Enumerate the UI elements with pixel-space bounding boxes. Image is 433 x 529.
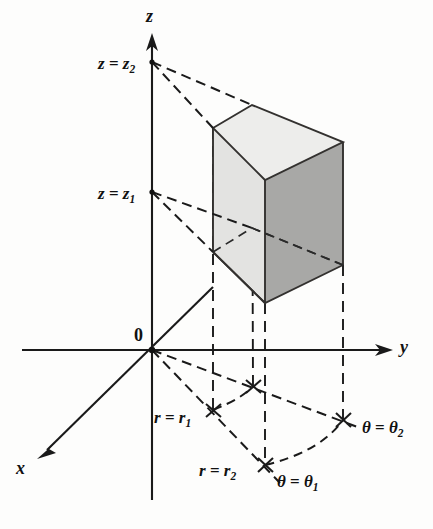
origin-label: 0 <box>134 325 143 345</box>
label-theta-first: θ = θ1 <box>277 472 319 493</box>
projline-z2-to-left <box>152 62 213 128</box>
axis-label-z: z <box>145 6 153 26</box>
axis-label-y: y <box>398 337 409 357</box>
z2-tick <box>149 59 154 64</box>
solid-wedge-group <box>213 105 343 303</box>
label-theta-second: θ = θ2 <box>362 418 404 439</box>
projline-z1-to-left <box>152 192 213 252</box>
label-z-upper: z = z2 <box>97 54 135 75</box>
ground-intersection-ticks <box>206 380 351 472</box>
origin-point <box>149 347 155 353</box>
label-r-inner: r = r1 <box>154 408 191 429</box>
label-z-lower: z = z1 <box>97 184 135 205</box>
labels-group: z y x 0 z = z2 z = z1 r = r1 r = r2 <box>15 6 409 493</box>
arc-r2 <box>265 420 343 465</box>
cylindrical-coordinates-diagram: z y x 0 z = z2 z = z1 r = r1 r = r2 <box>0 0 433 529</box>
label-r-outer: r = r2 <box>199 461 236 482</box>
z1-tick <box>149 189 154 194</box>
projline-z2-to-back <box>152 62 252 105</box>
figure-root: z y x 0 z = z2 z = z1 r = r1 r = r2 <box>0 0 433 529</box>
axis-label-x: x <box>15 458 25 478</box>
